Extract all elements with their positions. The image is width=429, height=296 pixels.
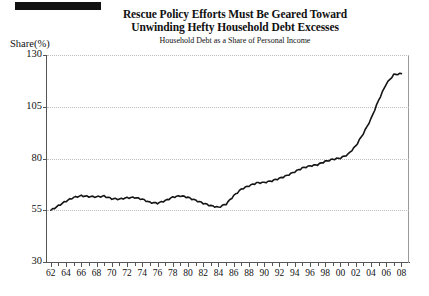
x-tick-1985: [226, 262, 227, 266]
x-tick-1983: [211, 262, 212, 266]
x-tick-1963: [58, 262, 59, 266]
x-tick-2002: [356, 262, 357, 267]
chart-title-line-1: Rescue Policy Efforts Must Be Geared Tow…: [90, 8, 380, 21]
x-tick-1976: [158, 262, 159, 267]
x-tick-1981: [196, 262, 197, 266]
x-tick-1974: [142, 262, 143, 267]
x-tick-1966: [81, 262, 82, 267]
x-tick-2004: [371, 262, 372, 267]
x-tick-1984: [218, 262, 219, 267]
x-tick-1980: [188, 262, 189, 267]
x-tick-1994: [295, 262, 296, 267]
chart-title-block: Rescue Policy Efforts Must Be Geared Tow…: [90, 8, 380, 46]
y-tick-label-80: 80: [2, 153, 42, 163]
x-tick-1997: [318, 262, 319, 266]
x-tick-2005: [379, 262, 380, 266]
data-series-line: [47, 55, 409, 262]
x-tick-1986: [234, 262, 235, 267]
x-tick-1962: [51, 262, 52, 267]
x-tick-1993: [287, 262, 288, 266]
x-tick-label-08: 08: [391, 268, 411, 279]
x-tick-1991: [272, 262, 273, 266]
x-tick-1972: [127, 262, 128, 267]
y-tick-mark-30: [43, 262, 47, 263]
x-tick-1973: [135, 262, 136, 266]
x-tick-1987: [241, 262, 242, 266]
x-tick-1990: [264, 262, 265, 267]
x-tick-1998: [325, 262, 326, 267]
x-tick-1996: [310, 262, 311, 267]
x-tick-1978: [173, 262, 174, 267]
x-tick-1979: [180, 262, 181, 266]
y-tick-label-130: 130: [2, 49, 42, 59]
x-tick-1977: [165, 262, 166, 266]
x-tick-1965: [74, 262, 75, 266]
y-tick-label-105: 105: [2, 101, 42, 111]
x-tick-2001: [348, 262, 349, 266]
x-tick-1969: [104, 262, 105, 266]
x-tick-1988: [249, 262, 250, 267]
x-tick-1999: [333, 262, 334, 266]
x-tick-2003: [363, 262, 364, 266]
x-tick-1995: [302, 262, 303, 266]
chart-figure: Rescue Policy Efforts Must Be Geared Tow…: [0, 0, 429, 296]
x-tick-1970: [112, 262, 113, 267]
x-tick-2008: [401, 262, 402, 267]
y-tick-label-55: 55: [2, 204, 42, 214]
x-tick-1975: [150, 262, 151, 266]
black-marker-bar: [15, 2, 101, 10]
x-tick-2000: [340, 262, 341, 267]
x-tick-1971: [119, 262, 120, 266]
chart-title-line-2: Unwinding Hefty Household Debt Excesses: [90, 21, 380, 34]
y-tick-label-30: 30: [2, 256, 42, 266]
x-tick-1992: [279, 262, 280, 267]
x-tick-1967: [89, 262, 90, 266]
x-tick-2006: [386, 262, 387, 267]
chart-subtitle: Household Debt as a Share of Personal In…: [90, 35, 380, 46]
x-tick-1964: [66, 262, 67, 267]
x-tick-1982: [203, 262, 204, 267]
x-tick-1968: [97, 262, 98, 267]
x-tick-2007: [394, 262, 395, 266]
plot-area: [47, 55, 409, 262]
x-tick-1989: [257, 262, 258, 266]
